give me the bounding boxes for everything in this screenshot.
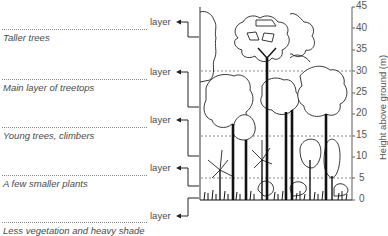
canopy-crown-3	[298, 66, 347, 116]
arrow-heads	[176, 20, 181, 219]
shrub-3	[334, 184, 348, 196]
forest-illustration	[0, 0, 388, 236]
bracket-arrows	[179, 22, 199, 216]
height-axis	[352, 7, 355, 200]
right-emergent-crown	[290, 14, 314, 57]
ground-vegetation	[200, 190, 352, 200]
